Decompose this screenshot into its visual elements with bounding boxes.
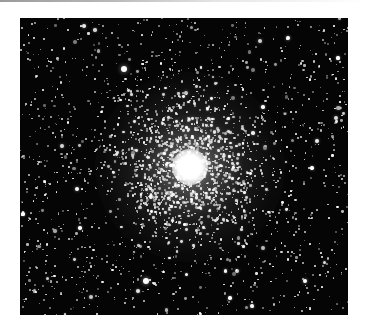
star [54, 172, 55, 173]
star [91, 129, 92, 130]
star [171, 279, 173, 281]
star [273, 303, 275, 305]
star [327, 257, 329, 259]
star [162, 152, 165, 155]
star [132, 176, 134, 178]
star [124, 53, 125, 54]
star [157, 192, 159, 194]
star [194, 260, 196, 262]
star [244, 299, 246, 301]
star [83, 266, 84, 267]
star [37, 108, 39, 110]
star [286, 146, 288, 148]
star [158, 144, 161, 147]
star [165, 232, 167, 234]
star [341, 228, 343, 230]
star [196, 151, 198, 153]
star [146, 19, 148, 21]
star [42, 249, 43, 250]
star [140, 165, 142, 167]
star [191, 265, 193, 267]
star [246, 189, 248, 191]
star [219, 97, 221, 99]
star [44, 165, 46, 167]
star [158, 208, 160, 210]
star [75, 187, 79, 191]
star [310, 225, 311, 226]
star [168, 176, 170, 178]
star [160, 214, 162, 216]
star [46, 244, 48, 246]
star [173, 201, 175, 203]
star [209, 275, 210, 276]
star [202, 135, 204, 137]
star [151, 118, 153, 120]
star [48, 281, 50, 283]
star [233, 164, 235, 166]
star [207, 260, 208, 261]
star [140, 255, 142, 257]
star [120, 163, 122, 165]
star [240, 173, 241, 174]
star [44, 116, 45, 117]
star [226, 220, 228, 222]
star [96, 277, 97, 278]
star [164, 184, 165, 185]
star [113, 128, 115, 130]
star [128, 148, 130, 150]
star [261, 123, 263, 125]
star [312, 91, 314, 93]
star [181, 20, 183, 22]
star [95, 149, 97, 151]
star [64, 313, 67, 315]
star [219, 76, 221, 78]
star [160, 80, 162, 82]
star [135, 223, 137, 225]
star [188, 68, 189, 69]
star [59, 76, 61, 78]
star [180, 228, 181, 229]
star [336, 264, 337, 265]
star [246, 176, 248, 178]
star [303, 181, 305, 183]
star [263, 89, 265, 91]
star [218, 107, 219, 108]
star [208, 188, 210, 190]
star [180, 271, 181, 272]
star [222, 211, 223, 212]
star [334, 42, 336, 44]
star [170, 145, 173, 148]
star [163, 97, 164, 98]
star [318, 65, 320, 67]
star [188, 148, 189, 149]
star [220, 165, 223, 168]
star [54, 248, 56, 250]
star [208, 264, 209, 265]
star [77, 173, 79, 175]
star [196, 71, 198, 73]
star [231, 177, 234, 180]
star [155, 110, 157, 112]
star [188, 151, 190, 153]
star [332, 185, 334, 187]
star [155, 104, 156, 105]
star [180, 128, 181, 129]
star [186, 111, 188, 113]
star [156, 213, 157, 214]
star [305, 152, 307, 154]
star [319, 274, 321, 276]
star [200, 216, 202, 218]
star [138, 218, 139, 219]
star [291, 74, 292, 75]
star [183, 174, 185, 176]
star [195, 52, 197, 54]
star [200, 130, 202, 132]
star [269, 215, 271, 217]
star [84, 180, 85, 181]
star [67, 29, 69, 31]
star [300, 62, 302, 64]
star [276, 221, 278, 223]
star [45, 193, 47, 195]
star [125, 153, 126, 154]
star [123, 93, 125, 95]
